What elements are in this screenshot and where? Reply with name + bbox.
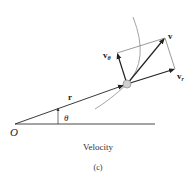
position-vector-label: r (68, 93, 72, 102)
velocity-diagram (0, 0, 196, 179)
origin-label: O (10, 127, 18, 138)
figure-subcaption: (c) (0, 163, 196, 172)
transverse-velocity-label: vθ (103, 51, 111, 61)
trajectory-curve (95, 17, 140, 109)
transverse-velocity-arrow (118, 54, 128, 84)
particle-icon (123, 80, 131, 88)
construction-line-right (165, 38, 175, 69)
radial-velocity-arrow (127, 69, 174, 84)
velocity-vector-arrow (127, 39, 164, 84)
velocity-label: v (168, 32, 173, 41)
construction-line-top (117, 38, 165, 53)
figure-caption: Velocity (0, 142, 196, 152)
theta-label: θ (64, 114, 68, 123)
radial-velocity-label: vr (177, 72, 184, 82)
